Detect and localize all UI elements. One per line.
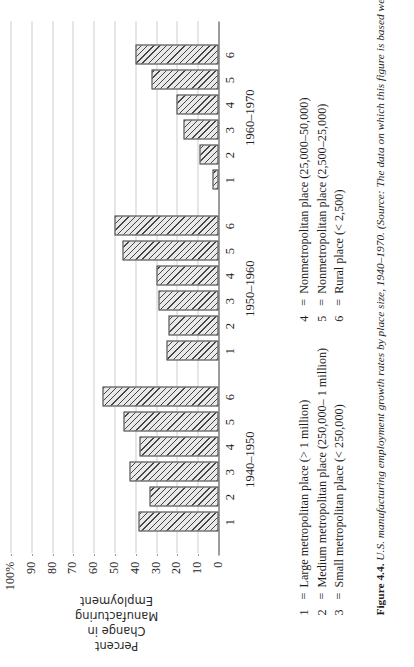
legend-number-1: 1 [296, 604, 311, 615]
y-tick-60: 60 [85, 561, 100, 613]
bar-1960–1970-cat4 [176, 95, 218, 115]
figure-page: PercentChange inManufacturingEmployment … [0, 0, 414, 667]
y-tick-30: 30 [148, 561, 163, 613]
legend-text-1: Large metropolitan place (> 1 million) [296, 399, 311, 587]
bar-1940–1950-cat4 [139, 437, 218, 457]
bar-1960–1970-cat1 [212, 170, 218, 190]
legend-column-left: 1=Large metropolitan place (> 1 million)… [296, 347, 346, 615]
bar-1940–1950-cat2 [149, 487, 218, 507]
x-tick-1950–1960-3: 3 [222, 289, 237, 313]
x-tick-1940–1950-1: 1 [222, 510, 237, 534]
x-tick-1950–1960-4: 4 [222, 264, 237, 288]
bar-1960–1970-cat6 [135, 45, 218, 65]
bar-1940–1950-cat6 [102, 387, 218, 407]
bar-1960–1970-cat3 [183, 120, 218, 140]
x-tick-1940–1950-4: 4 [222, 435, 237, 459]
bar-1950–1960-cat1 [166, 341, 218, 361]
bar-1940–1950-cat1 [138, 512, 218, 532]
group-label-1960–1970: 1960–1970 [242, 42, 257, 192]
x-tick-1940–1950-2: 2 [222, 485, 237, 509]
x-tick-1950–1960-2: 2 [222, 314, 237, 338]
y-tick-100: 100% [2, 561, 17, 613]
x-tick-1950–1960-5: 5 [222, 239, 237, 263]
legend-text-2: Medium metropolitan place (250,000– 1 mi… [314, 347, 329, 587]
x-tick-1940–1950-6: 6 [222, 385, 237, 409]
legend-item-2: 2=Medium metropolitan place (250,000– 1 … [314, 347, 329, 615]
bar-1960–1970-cat2 [199, 145, 218, 165]
x-tick-1960–1970-2: 2 [222, 143, 237, 167]
y-tick-0: 0 [210, 561, 225, 613]
legend: 1=Large metropolitan place (> 1 million)… [296, 97, 346, 615]
legend-equals-3: = [331, 587, 346, 604]
bar-1940–1950-cat5 [123, 412, 218, 432]
bar-group-1940–1950 [10, 384, 218, 534]
bar-1950–1960-cat4 [156, 266, 218, 286]
x-tick-1950–1960-6: 6 [222, 214, 237, 238]
legend-item-3: 3=Small metropolitan place (< 250,000) [331, 347, 346, 615]
legend-equals-5: = [314, 293, 329, 310]
legend-number-2: 2 [314, 604, 329, 615]
legend-equals-6: = [331, 293, 346, 310]
y-tick-40: 40 [127, 561, 142, 613]
y-tick-50: 50 [106, 561, 121, 613]
legend-number-6: 6 [331, 310, 346, 321]
x-tick-1950–1960-1: 1 [222, 339, 237, 363]
group-label-1950–1960: 1950–1960 [242, 213, 257, 363]
figure-number: Figure 4.4. [373, 563, 385, 615]
bar-1940–1950-cat3 [129, 462, 218, 482]
legend-item-4: 4=Nonmetropolitan place (25,000–50,000) [296, 97, 311, 321]
bar-1960–1970-cat5 [151, 70, 218, 90]
x-tick-1940–1950-5: 5 [222, 410, 237, 434]
legend-column-right: 4=Nonmetropolitan place (25,000–50,000)5… [296, 97, 346, 321]
legend-equals-4: = [296, 293, 311, 310]
legend-number-3: 3 [331, 604, 346, 615]
x-tick-1960–1970-4: 4 [222, 93, 237, 117]
legend-text-4: Nonmetropolitan place (25,000–50,000) [296, 97, 311, 293]
y-axis-title-line-0: Percent [26, 637, 206, 652]
legend-equals-1: = [296, 587, 311, 604]
x-tick-1960–1970-6: 6 [222, 43, 237, 67]
y-tick-80: 80 [44, 561, 59, 613]
y-tick-90: 90 [23, 561, 38, 613]
figure-caption: Figure 4.4. U.S. manufacturing employmen… [372, 0, 386, 615]
legend-item-5: 5=Nonmetropolitan place (2,500–25,000) [314, 97, 329, 321]
y-tick-20: 20 [168, 561, 183, 613]
x-tick-1960–1970-1: 1 [222, 168, 237, 192]
bar-group-1960–1970 [10, 42, 218, 192]
legend-item-1: 1=Large metropolitan place (> 1 million) [296, 347, 311, 615]
legend-text-3: Small metropolitan place (< 250,000) [331, 404, 346, 587]
chart: PercentChange inManufacturingEmployment … [8, 15, 258, 615]
bar-groups [10, 21, 218, 555]
x-tick-1960–1970-3: 3 [222, 118, 237, 142]
bar-1950–1960-cat6 [114, 216, 218, 236]
x-tick-1960–1970-5: 5 [222, 68, 237, 92]
legend-number-4: 4 [296, 310, 311, 321]
plot-area: 0102030405060708090100% [10, 21, 219, 555]
rotated-page-content: PercentChange inManufacturingEmployment … [0, 0, 414, 667]
legend-text-6: Rural place (< 2,500) [331, 189, 346, 293]
group-label-1940–1950: 1940–1950 [242, 384, 257, 534]
bar-1950–1960-cat3 [158, 291, 218, 311]
y-axis-title-line-1: Change in [26, 622, 206, 637]
legend-number-5: 5 [314, 310, 329, 321]
legend-text-5: Nonmetropolitan place (2,500–25,000) [314, 103, 329, 293]
legend-equals-2: = [314, 587, 329, 604]
bar-1950–1960-cat5 [122, 241, 218, 261]
bar-1950–1960-cat2 [168, 316, 218, 336]
y-tick-70: 70 [64, 561, 79, 613]
x-tick-1940–1950-3: 3 [222, 460, 237, 484]
bar-group-1950–1960 [10, 213, 218, 363]
legend-item-6: 6=Rural place (< 2,500) [331, 97, 346, 321]
y-tick-10: 10 [189, 561, 204, 613]
figure-caption-text: U.S. manufacturing employment growth rat… [373, 0, 385, 560]
